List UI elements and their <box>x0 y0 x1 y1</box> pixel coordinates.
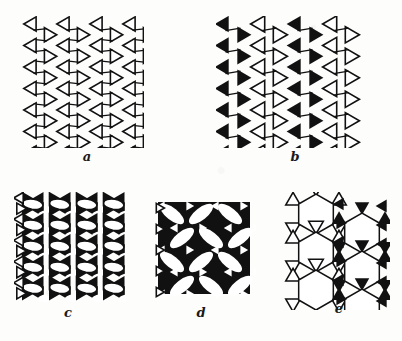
triangle-tile <box>309 48 323 64</box>
figure-sheet: a b c d e <box>0 0 402 341</box>
triangle-tile <box>90 146 102 148</box>
triangle-tile <box>251 37 265 53</box>
triangle-tile <box>57 38 69 52</box>
triangle-tile <box>323 145 337 148</box>
triangle-tile <box>123 60 135 74</box>
panel-e <box>282 192 390 310</box>
triangle-tile <box>14 214 23 225</box>
panel-c-graphic <box>14 192 126 302</box>
triangle-tile <box>286 299 301 310</box>
triangle-tile <box>44 114 56 128</box>
triangle-tile <box>44 135 56 148</box>
triangle-tile <box>44 49 56 63</box>
triangle-tile <box>309 113 323 129</box>
panel-c <box>14 192 126 302</box>
triangle-tile <box>216 80 229 96</box>
triangle-tile <box>253 268 256 277</box>
panel-a <box>22 16 144 148</box>
panel-label-d: d <box>194 306 208 319</box>
triangle-tile <box>110 71 122 85</box>
triangle-tile <box>14 192 23 203</box>
triangle-tile <box>110 135 122 148</box>
triangle-tile <box>251 80 265 96</box>
triangle-tile <box>77 92 89 106</box>
panel-e-graphic <box>282 192 390 310</box>
triangle-tile <box>90 81 102 95</box>
triangle-tile <box>323 59 337 75</box>
triangle-tile <box>77 49 89 63</box>
triangle-tile <box>110 28 122 42</box>
triangle-tile <box>251 16 265 32</box>
triangle-tile <box>216 123 229 139</box>
panel-a-graphic <box>22 16 144 148</box>
triangle-tile <box>287 37 301 53</box>
triangle-tile <box>216 145 229 148</box>
triangle-tile <box>24 124 36 138</box>
triangle-tile <box>323 80 337 96</box>
triangle-tile <box>143 71 144 85</box>
panel-label-b: b <box>288 150 302 163</box>
triangle-tile <box>143 114 144 128</box>
triangle-tile <box>345 70 359 86</box>
triangle-tile <box>143 49 144 63</box>
triangle-tile <box>123 103 135 117</box>
triangle-tile <box>216 37 229 53</box>
triangle-tile <box>77 28 89 42</box>
triangle-tile <box>345 113 359 129</box>
triangle-tile <box>90 60 102 74</box>
triangle-tile <box>90 103 102 117</box>
triangle-tile <box>251 145 265 148</box>
triangle-tile <box>143 135 144 148</box>
triangle-tile <box>14 256 23 267</box>
triangle-tile <box>309 27 323 43</box>
triangle-tile <box>323 37 337 53</box>
panel-b-graphic <box>216 16 372 148</box>
triangle-tile <box>286 192 301 205</box>
triangle-tile <box>323 123 337 139</box>
triangle-tile <box>345 91 359 107</box>
triangle-tile <box>273 70 287 86</box>
triangle-tile <box>57 81 69 95</box>
triangle-tile <box>110 49 122 63</box>
triangle-tile <box>273 91 287 107</box>
triangle-tile <box>143 28 144 42</box>
panel-d-graphic <box>152 196 256 302</box>
polygon-tile <box>345 289 380 310</box>
triangle-tile <box>57 60 69 74</box>
triangle-tile <box>57 103 69 117</box>
triangle-tile <box>376 200 387 213</box>
triangle-tile <box>237 27 251 43</box>
triangle-tile <box>287 123 301 139</box>
triangle-tile <box>237 91 251 107</box>
triangle-tile <box>287 59 301 75</box>
triangle-tile <box>57 146 69 148</box>
triangle-tile <box>287 102 301 118</box>
triangle-tile <box>216 102 229 118</box>
panel-label-e: e <box>332 302 346 315</box>
triangle-tile <box>345 48 359 64</box>
triangle-tile <box>44 28 56 42</box>
triangle-tile <box>110 114 122 128</box>
panel-label-a: a <box>80 150 94 163</box>
triangle-tile <box>123 17 135 31</box>
triangle-tile <box>273 113 287 129</box>
triangle-tile <box>287 145 301 148</box>
triangle-tile <box>14 235 23 246</box>
triangle-tile <box>77 135 89 148</box>
triangle-tile <box>90 124 102 138</box>
triangle-tile <box>273 27 287 43</box>
triangle-tile <box>24 17 36 31</box>
triangle-tile <box>57 17 69 31</box>
triangle-tile <box>77 114 89 128</box>
panel-d <box>152 196 256 302</box>
triangle-tile <box>345 27 359 43</box>
triangle-tile <box>287 16 301 32</box>
triangle-tile <box>24 146 36 148</box>
triangle-tile <box>24 60 36 74</box>
panel-label-c: c <box>61 306 75 319</box>
triangle-tile <box>273 48 287 64</box>
triangle-tile <box>143 92 144 106</box>
triangle-tile <box>57 124 69 138</box>
triangle-tile <box>24 38 36 52</box>
panel-b <box>216 16 372 148</box>
